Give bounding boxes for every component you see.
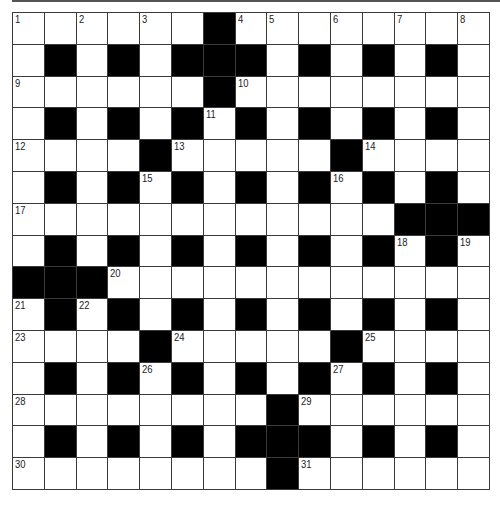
letter-cell[interactable] [395,45,426,76]
letter-cell[interactable]: 23 [13,331,44,362]
letter-cell[interactable] [299,267,330,298]
letter-cell[interactable] [458,77,489,108]
letter-cell[interactable]: 19 [458,236,489,267]
letter-cell[interactable] [395,395,426,426]
letter-cell[interactable] [236,140,267,171]
letter-cell[interactable] [77,331,108,362]
letter-cell[interactable] [108,140,139,171]
letter-cell[interactable] [267,45,298,76]
letter-cell[interactable] [458,140,489,171]
letter-cell[interactable] [426,331,457,362]
letter-cell[interactable] [45,204,76,235]
letter-cell[interactable] [236,204,267,235]
letter-cell[interactable] [45,13,76,44]
letter-cell[interactable]: 12 [13,140,44,171]
letter-cell[interactable] [108,204,139,235]
letter-cell[interactable] [140,236,171,267]
letter-cell[interactable] [395,426,426,457]
letter-cell[interactable] [172,395,203,426]
letter-cell[interactable]: 31 [299,458,330,489]
letter-cell[interactable] [426,13,457,44]
letter-cell[interactable]: 22 [77,299,108,330]
letter-cell[interactable] [331,108,362,139]
letter-cell[interactable] [140,108,171,139]
letter-cell[interactable] [426,267,457,298]
letter-cell[interactable]: 15 [140,172,171,203]
letter-cell[interactable] [77,395,108,426]
letter-cell[interactable] [77,140,108,171]
letter-cell[interactable] [140,299,171,330]
letter-cell[interactable] [331,204,362,235]
letter-cell[interactable] [77,45,108,76]
letter-cell[interactable] [363,13,394,44]
letter-cell[interactable] [331,458,362,489]
letter-cell[interactable] [395,77,426,108]
letter-cell[interactable] [140,458,171,489]
letter-cell[interactable] [363,77,394,108]
letter-cell[interactable] [13,426,44,457]
letter-cell[interactable] [395,108,426,139]
letter-cell[interactable]: 30 [13,458,44,489]
letter-cell[interactable] [395,172,426,203]
letter-cell[interactable] [204,395,235,426]
letter-cell[interactable] [426,395,457,426]
letter-cell[interactable] [236,267,267,298]
letter-cell[interactable]: 18 [395,236,426,267]
letter-cell[interactable]: 17 [13,204,44,235]
letter-cell[interactable] [299,331,330,362]
letter-cell[interactable] [458,363,489,394]
letter-cell[interactable] [172,13,203,44]
letter-cell[interactable] [204,458,235,489]
letter-cell[interactable] [77,426,108,457]
letter-cell[interactable] [267,77,298,108]
letter-cell[interactable] [77,77,108,108]
letter-cell[interactable] [140,395,171,426]
letter-cell[interactable] [458,426,489,457]
letter-cell[interactable] [204,426,235,457]
letter-cell[interactable] [458,331,489,362]
letter-cell[interactable] [204,331,235,362]
letter-cell[interactable] [331,45,362,76]
letter-cell[interactable] [395,363,426,394]
letter-cell[interactable] [172,267,203,298]
letter-cell[interactable] [236,331,267,362]
letter-cell[interactable] [363,458,394,489]
letter-cell[interactable] [13,172,44,203]
letter-cell[interactable] [13,108,44,139]
letter-cell[interactable] [267,236,298,267]
letter-cell[interactable]: 13 [172,140,203,171]
letter-cell[interactable] [108,13,139,44]
letter-cell[interactable]: 28 [13,395,44,426]
letter-cell[interactable]: 7 [395,13,426,44]
letter-cell[interactable] [458,108,489,139]
letter-cell[interactable]: 24 [172,331,203,362]
letter-cell[interactable] [299,204,330,235]
letter-cell[interactable]: 25 [363,331,394,362]
letter-cell[interactable] [331,299,362,330]
letter-cell[interactable] [267,204,298,235]
letter-cell[interactable] [77,108,108,139]
letter-cell[interactable] [458,267,489,298]
letter-cell[interactable] [77,363,108,394]
letter-cell[interactable]: 2 [77,13,108,44]
letter-cell[interactable]: 26 [140,363,171,394]
letter-cell[interactable] [331,77,362,108]
letter-cell[interactable] [331,395,362,426]
letter-cell[interactable] [204,299,235,330]
letter-cell[interactable] [267,331,298,362]
letter-cell[interactable] [395,140,426,171]
letter-cell[interactable]: 20 [108,267,139,298]
letter-cell[interactable]: 5 [267,13,298,44]
letter-cell[interactable] [45,140,76,171]
letter-cell[interactable] [77,458,108,489]
letter-cell[interactable] [172,204,203,235]
letter-cell[interactable] [395,458,426,489]
letter-cell[interactable] [13,363,44,394]
letter-cell[interactable] [363,267,394,298]
letter-cell[interactable]: 8 [458,13,489,44]
letter-cell[interactable] [363,204,394,235]
letter-cell[interactable] [331,426,362,457]
letter-cell[interactable] [331,267,362,298]
letter-cell[interactable]: 11 [204,108,235,139]
letter-cell[interactable] [140,45,171,76]
